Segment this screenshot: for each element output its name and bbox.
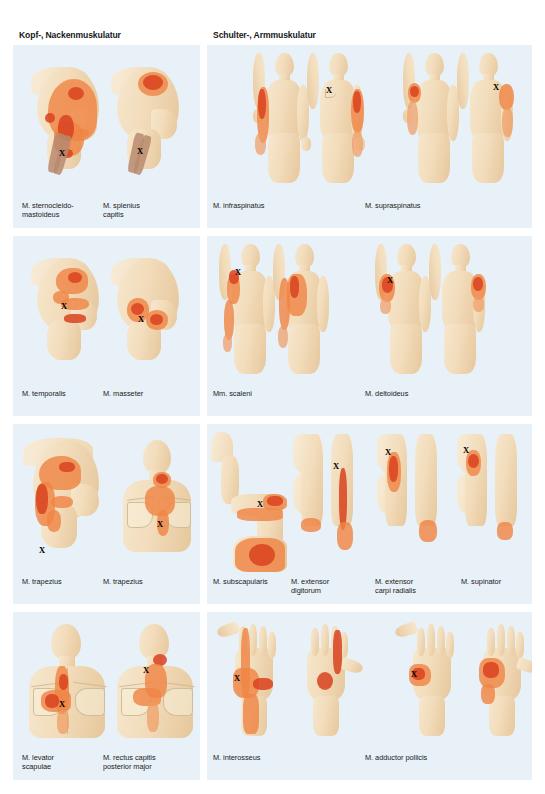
trigger-point-marker-splenius-capitis: X (137, 147, 143, 156)
figure-head-temporalis: X (31, 258, 115, 376)
trigger-point-marker-adductor-pollicis: X (411, 670, 417, 679)
figure-head-splenius-capitis: X (111, 67, 195, 185)
trigger-point-marker-subscapularis: X (257, 500, 263, 509)
panel-schulter-2: X (207, 236, 532, 416)
figure-head-masseter: X (111, 258, 195, 376)
figure-body-scaleni-posterior (273, 244, 333, 388)
caption-row-kopf-3: M. trapezius M. trapezius (13, 577, 200, 601)
reference-plate: Kopf-, Nackenmuskulatur Schulter-, Armmu… (0, 0, 545, 794)
trigger-point-marker-trapezius-2: X (157, 520, 163, 529)
trigger-point-marker-deltoideus: X (387, 276, 393, 285)
trigger-point-marker-supraspinatus: X (493, 83, 499, 92)
caption-trapezius-1: M. trapezius (22, 577, 62, 586)
caption-supinator: M. supinator (461, 577, 501, 586)
caption-scaleni: Mm. scaleni (213, 389, 252, 398)
caption-masseter: M. masseter (103, 389, 143, 398)
trigger-point-marker-temporalis: X (61, 302, 67, 311)
caption-row-schulter-4: M. interosseus M. adductor pollicis (207, 753, 532, 777)
trigger-point-marker-supinator: X (463, 446, 469, 455)
caption-row-schulter-3: M. subscapularis M. extensor digitorum M… (207, 577, 532, 601)
panel-kopf-2: X X M. temporalis M. masseter (13, 236, 200, 416)
figure-hand-interosseus-dorsal: X (217, 624, 293, 744)
caption-row-schulter-2: Mm. scaleni M. deltoideus (207, 389, 532, 413)
figure-group-hands: X (207, 612, 532, 754)
figure-group-scaleni: X (207, 236, 532, 390)
figure-body-deltoideus-anterior: X (375, 244, 435, 388)
trigger-point-marker-levator-scapulae: X (59, 700, 65, 709)
figure-back-levator-scapulae: X (21, 622, 113, 740)
figure-body-supraspinatus-anterior (403, 53, 463, 199)
panel-schulter-3: X X (207, 424, 532, 604)
figure-group-subscapularis: X X (207, 424, 532, 578)
caption-subscapularis: M. subscapularis (213, 577, 268, 586)
caption-trapezius-2: M. trapezius (103, 577, 143, 586)
figure-body-deltoideus-posterior (429, 244, 489, 388)
trigger-point-marker-sternocleidomastoideus: X (59, 149, 65, 158)
trigger-point-marker-masseter: X (138, 315, 144, 324)
caption-temporalis: M. temporalis (22, 389, 66, 398)
trigger-point-marker-infraspinatus: X (326, 86, 332, 95)
panel-kopf-4: X X M. levator scapulae M. rectus capiti… (13, 612, 200, 780)
trigger-point-marker-trapezius-1: X (39, 546, 45, 555)
panel-schulter-4: X (207, 612, 532, 780)
trigger-point-marker-interosseus: X (234, 674, 240, 683)
caption-levator-scapulae: M. levator scapulae (22, 753, 54, 771)
figure-head-trapezius-lateral: X (23, 438, 115, 564)
figure-head-sternocleidomastoideus: X (31, 67, 115, 185)
caption-row-kopf-1: M. sternocleido- mastoideus M. splenius … (13, 201, 200, 225)
trigger-point-marker-rectus-capitis: X (143, 666, 149, 675)
figure-body-supraspinatus-posterior: X (457, 53, 517, 199)
caption-splenius-capitis: M. splenius capitis (103, 201, 140, 219)
trigger-point-marker-extensor-digitorum: X (333, 462, 339, 471)
caption-deltoideus: M. deltoideus (365, 389, 408, 398)
figure-group-levator-scapulae: X X (13, 612, 200, 754)
caption-supraspinatus: M. supraspinatus (365, 201, 420, 210)
figure-hand-adductor-pollicis-palmar (465, 624, 532, 744)
figure-forearm-supinator: X (457, 434, 525, 574)
panel-kopf-1: X X M. sternocleido- mastoideus M. splen… (13, 45, 200, 228)
figure-back-trapezius-posterior: X (113, 438, 200, 564)
panel-schulter-1: X (207, 45, 532, 228)
caption-rectus-capitis: M. rectus capitis posterior major (103, 753, 156, 771)
figure-hand-interosseus-palmar (289, 624, 365, 744)
caption-row-kopf-4: M. levator scapulae M. rectus capitis po… (13, 753, 200, 777)
caption-extensor-carpi-radialis: M. extensor carpi radialis (375, 577, 416, 595)
figure-group-sternocleidomastoideus: X X (13, 45, 200, 202)
caption-adductor-pollicis: M. adductor pollicis (365, 753, 427, 762)
caption-infraspinatus: M. infraspinatus (213, 201, 264, 210)
caption-row-schulter-1: M. infraspinatus M. supraspinatus (207, 201, 532, 225)
figure-back-rectus-capitis: X (109, 622, 200, 740)
figure-group-temporalis: X X (13, 236, 200, 390)
figure-body-infraspinatus-posterior: X (307, 53, 367, 199)
figure-forearm-extensor-digitorum: X (293, 434, 361, 574)
caption-row-kopf-2: M. temporalis M. masseter (13, 389, 200, 413)
caption-extensor-digitorum: M. extensor digitorum (291, 577, 329, 595)
caption-interosseus: M. interosseus (213, 753, 260, 762)
section-header-head-neck: Kopf-, Nackenmuskulatur (19, 30, 121, 40)
caption-sternocleidomastoideus: M. sternocleido- mastoideus (22, 201, 74, 219)
figure-hand-adductor-pollicis-dorsal: X (395, 624, 471, 744)
figure-body-scaleni-anterior: X (219, 244, 279, 388)
figure-group-trapezius: X X (13, 424, 200, 578)
section-header-shoulder-arm: Schulter-, Armmuskulatur (213, 30, 316, 40)
figure-body-infraspinatus-anterior (253, 53, 313, 199)
figure-arm-subscapularis: X (211, 432, 287, 574)
panel-kopf-3: X X M. trapezius M. trapezius (13, 424, 200, 604)
trigger-point-marker-extensor-carpi-radialis: X (385, 448, 391, 457)
figure-group-infraspinatus: X (207, 45, 532, 202)
figure-forearm-extensor-carpi-radialis: X (377, 434, 445, 574)
trigger-point-marker-scaleni: X (235, 268, 241, 277)
